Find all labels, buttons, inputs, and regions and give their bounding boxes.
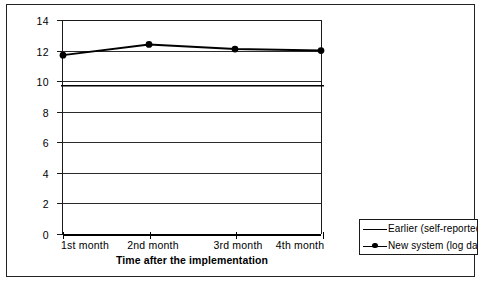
xtick-label-3rd-month: 3rd month: [213, 239, 262, 251]
legend-label-earlier: Earlier (self-reported): [388, 223, 478, 234]
data-series-layer: [63, 20, 321, 234]
xtick-label-1st-month: 1st month: [61, 239, 109, 251]
data-point-marker: [146, 41, 153, 48]
x-axis-title: Time after the implementation: [62, 254, 322, 266]
ytick-label-4: 4: [43, 168, 49, 180]
gridline-10: [63, 81, 321, 82]
ytick-mark-6: 6: [57, 142, 63, 143]
ytick-mark-4: 4: [57, 173, 63, 174]
xtick-mark-4th-month: [323, 232, 324, 239]
ytick-label-0: 0: [43, 229, 49, 241]
ytick-label-2: 2: [43, 198, 49, 210]
ytick-mark-2: 2: [57, 203, 63, 204]
gridline-8: [63, 112, 321, 113]
legend-item-new-system[interactable]: New system (log data: [360, 237, 477, 254]
gridline-2: [63, 203, 321, 204]
ytick-mark-8: 8: [57, 112, 63, 113]
x-axis-baseline: [63, 234, 321, 236]
ytick-label-10: 10: [37, 76, 49, 88]
ytick-mark-10: 10: [57, 81, 63, 82]
legend-line-dot-icon-new-system: [362, 239, 388, 253]
legend-label-new-system: New system (log data: [388, 240, 478, 251]
xtick-mark-2nd-month: [150, 232, 151, 239]
xtick-mark-1st-month: [63, 232, 64, 239]
ytick-label-14: 14: [37, 15, 49, 27]
ytick-mark-12: 12: [57, 51, 63, 52]
xtick-label-2nd-month: 2nd month: [127, 239, 178, 251]
xtick-mark-3rd-month: [236, 232, 237, 239]
ytick-label-12: 12: [37, 46, 49, 58]
chart-legend: Earlier (self-reported) New system (log …: [359, 219, 478, 255]
legend-line-icon-earlier: [362, 222, 388, 236]
chart-figure: 14 12 10 8 6 4 2 0 1st month 2nd month: [0, 0, 483, 284]
ytick-label-8: 8: [43, 107, 49, 119]
plot-area: 14 12 10 8 6 4 2 0 1st month 2nd month: [62, 20, 322, 234]
legend-item-earlier[interactable]: Earlier (self-reported): [360, 220, 477, 237]
ytick-label-6: 6: [43, 137, 49, 149]
ytick-mark-14: 14: [57, 20, 63, 21]
gridline-6: [63, 142, 321, 143]
gridline-12: [63, 51, 321, 52]
xtick-label-4th-month: 4th month: [276, 239, 325, 251]
gridline-14: [63, 20, 321, 21]
gridline-4: [63, 173, 321, 174]
